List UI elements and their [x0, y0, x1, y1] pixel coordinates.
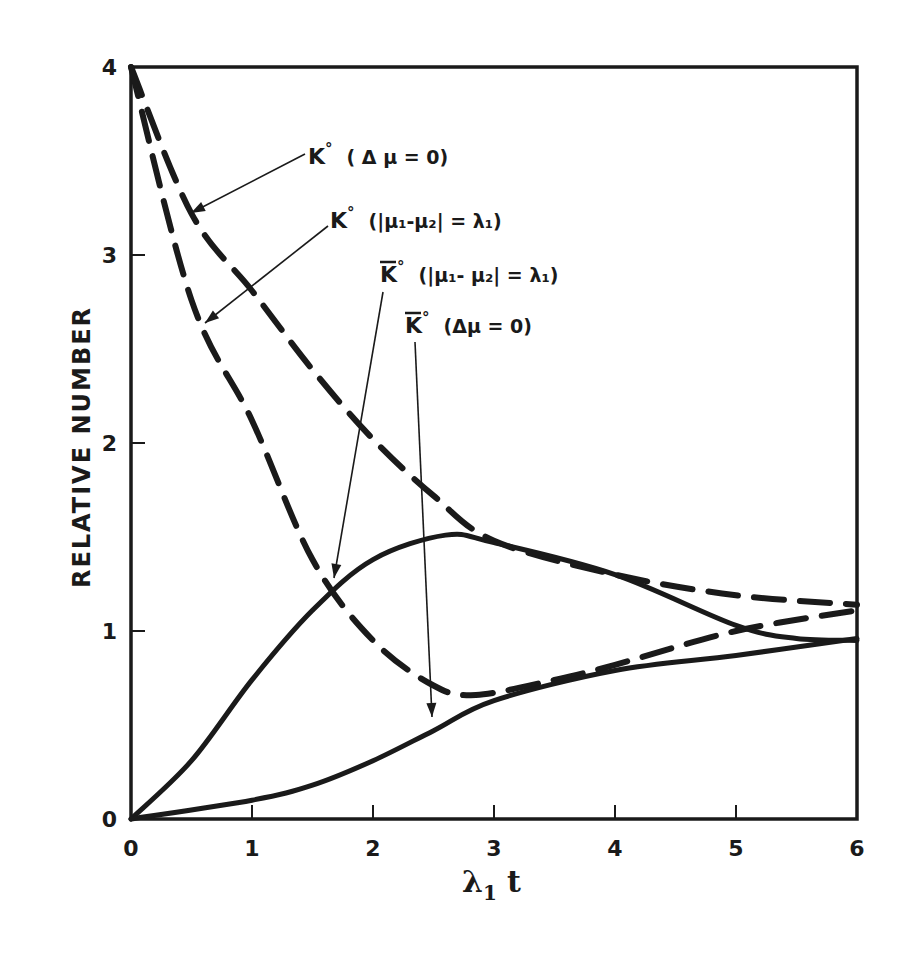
y-tick-label: 4	[102, 55, 117, 80]
arrow-head-icon	[331, 563, 341, 578]
curve-kbar0-mu-diff-lambda	[131, 534, 857, 819]
x-tick-label: 0	[123, 836, 138, 861]
annotation-label: K°(|μ₁- μ₂| = λ₁)	[380, 258, 558, 287]
svg-text:λ1t: λ1t	[462, 864, 521, 905]
y-tick-label: 1	[102, 619, 117, 644]
annotation-kbar0-mu-diff-lambda: K°(|μ₁- μ₂| = λ₁)	[331, 258, 558, 578]
x-axis-label-t: t	[507, 864, 521, 899]
y-tick-label: 0	[102, 807, 117, 832]
plot-frame	[131, 67, 857, 819]
x-tick-label: 6	[849, 836, 864, 861]
axes: 012345601234	[102, 55, 865, 861]
y-axis-label: RELATIVE NUMBER	[68, 306, 96, 588]
annotation-k0-delta-mu-zero: K°( Δ μ = 0)	[191, 140, 448, 213]
arrow-head-icon	[205, 310, 219, 323]
annotation-label: K°(|μ₁-μ₂| = λ₁)	[330, 204, 502, 233]
curve-kbar0-delta-mu-zero	[131, 639, 857, 819]
x-tick-label: 4	[607, 836, 622, 861]
arrow-line	[415, 342, 432, 717]
x-tick-label: 1	[244, 836, 259, 861]
annotation-label: K°( Δ μ = 0)	[308, 140, 448, 169]
x-tick-label: 3	[486, 836, 501, 861]
x-axis-label: λ1t	[462, 864, 521, 905]
y-tick-label: 3	[102, 243, 117, 268]
curve-k0-mu-diff-lambda	[131, 67, 857, 695]
arrow-head-icon	[426, 703, 436, 717]
x-tick-label: 5	[728, 836, 743, 861]
arrow-line	[334, 292, 383, 578]
curves	[131, 67, 857, 819]
annotations: K°( Δ μ = 0)K°(|μ₁-μ₂| = λ₁)K°(|μ₁- μ₂| …	[191, 140, 558, 717]
x-axis-label-sub: 1	[483, 881, 497, 905]
annotation-label: K°(Δμ = 0)	[405, 309, 532, 338]
x-tick-label: 2	[365, 836, 380, 861]
y-tick-label: 2	[102, 431, 117, 456]
arrow-head-icon	[191, 202, 206, 213]
x-axis-label-lambda: λ	[462, 864, 483, 899]
annotation-kbar0-delta-mu-zero: K°(Δμ = 0)	[405, 309, 532, 717]
arrow-line	[191, 154, 305, 213]
chart: 012345601234 K°( Δ μ = 0)K°(|μ₁-μ₂| = λ₁…	[0, 0, 915, 957]
